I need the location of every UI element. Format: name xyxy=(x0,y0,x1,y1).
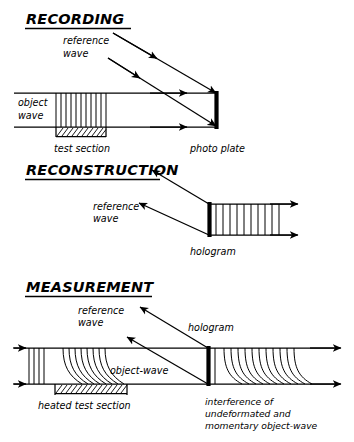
output-arrows-reconstruction xyxy=(270,204,298,235)
label-hologram-measurement: hologram xyxy=(188,322,234,333)
label-interference-3: momentary object-wave xyxy=(205,420,318,431)
panel-reconstruction: RECONSTRUCTION xyxy=(25,162,298,257)
label-photo-plate: photo plate xyxy=(189,143,245,154)
label-reference-wave-recording-1: reference xyxy=(63,35,109,46)
label-object-wave-recording-2: wave xyxy=(18,110,43,121)
interference-fringes xyxy=(215,348,312,384)
plane-wavefronts-reconstruction xyxy=(216,204,279,235)
panel-title-recording: RECORDING xyxy=(26,11,124,27)
label-heated-test-section: heated test section xyxy=(38,400,131,411)
reference-wave-midarrows-recording xyxy=(108,33,157,78)
label-reference-wave-measurement-2: wave xyxy=(78,317,103,328)
label-reference-wave-measurement-1: reference xyxy=(78,305,124,316)
reference-wave-arrows-recording xyxy=(108,33,216,126)
label-interference-1: interference of xyxy=(205,396,275,407)
object-wave-arrows-recording xyxy=(150,93,187,127)
heated-test-section-hatch xyxy=(55,384,127,395)
label-reference-wave-reconstruction-2: wave xyxy=(93,213,118,224)
label-reference-wave-reconstruction-1: reference xyxy=(93,201,139,212)
outlet-arrows-measurement xyxy=(310,348,341,384)
label-object-wave-recording-1: object xyxy=(18,97,49,108)
panel-measurement: MEASUREMENT xyxy=(13,279,341,431)
label-interference-2: undeformated and xyxy=(205,408,291,419)
panel-recording: RECORDING xyxy=(14,11,245,154)
plane-wavefronts-recording xyxy=(56,93,106,127)
label-object-wave-measurement: object-wave xyxy=(110,365,168,376)
reconstructed-channel xyxy=(209,204,297,235)
label-reference-wave-recording-2: wave xyxy=(63,48,88,59)
diagram-canvas: RECORDING xyxy=(0,0,354,442)
panel-title-reconstruction: RECONSTRUCTION xyxy=(26,162,179,178)
inlet-arrows-measurement xyxy=(13,348,26,384)
holography-diagram: RECORDING xyxy=(0,0,354,442)
straight-wavefronts-measurement xyxy=(29,348,44,384)
label-test-section: test section xyxy=(54,143,110,154)
test-section-hatch-recording xyxy=(56,127,106,137)
panel-title-measurement: MEASUREMENT xyxy=(26,279,154,295)
label-hologram-reconstruction: hologram xyxy=(190,246,236,257)
